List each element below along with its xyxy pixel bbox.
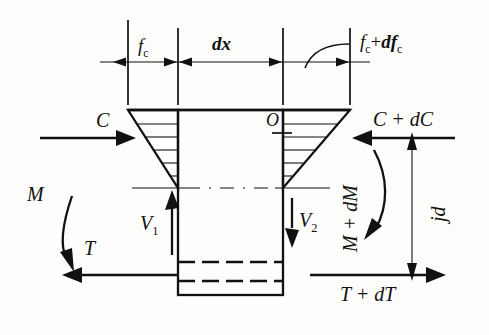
label-T: T: [84, 238, 95, 258]
label-O: O: [266, 111, 279, 129]
label-C: C: [96, 110, 109, 130]
dim-arrow-fc-left: [113, 58, 126, 67]
label-fc-left: fc: [138, 36, 149, 60]
jd-arrowhead-top: [407, 132, 417, 150]
arrowhead-CdC: [352, 130, 372, 146]
label-M-plus-dM: M + dM: [340, 185, 360, 252]
label-jd: jd: [428, 206, 448, 222]
arrowhead-C: [116, 130, 136, 146]
dim-arrow-fc-right: [164, 58, 177, 67]
stress-triangle-right: [283, 110, 350, 188]
label-T-plus-dT: T + dT: [340, 284, 395, 304]
label-dx: dx: [212, 34, 231, 53]
beam-element-outline: [178, 110, 283, 295]
label-C-plus-dC: C + dC: [373, 109, 433, 129]
dim-arrow-fc2: [336, 58, 349, 67]
arrowhead-TdT: [426, 267, 446, 283]
dim-arrow-dx-left: [179, 58, 192, 67]
leader-curve-right-stress: [305, 44, 349, 68]
label-fc-plus-dfc: fc+dfc: [360, 32, 402, 56]
moment-arc-MdM: [374, 150, 385, 228]
jd-arrowhead-bottom: [407, 263, 417, 281]
label-M: M: [27, 184, 44, 204]
arrowhead-V2: [285, 228, 299, 248]
diagram-vector-layer: [0, 0, 489, 335]
arrowhead-T: [62, 267, 82, 283]
arrowhead-M: [60, 248, 74, 272]
label-V1: V1: [140, 213, 158, 237]
dim-arrow-dx-right: [269, 58, 282, 67]
figure-canvas: fc dx fc+dfc C O C + dC M T V1 V2 M + dM…: [0, 0, 489, 335]
label-V2: V2: [299, 210, 317, 234]
